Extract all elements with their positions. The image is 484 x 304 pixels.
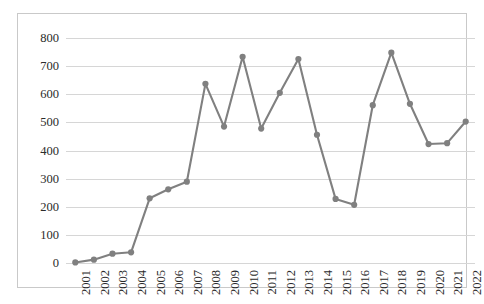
x-axis-tick-label: 2011 <box>266 270 279 295</box>
x-axis-tick-label: 2021 <box>452 270 465 295</box>
plot-frame: 0100200300400500600700800 20012002200320… <box>17 13 467 288</box>
data-point-marker <box>147 195 153 201</box>
data-point-marker <box>407 101 413 107</box>
y-axis-tick-label: 600 <box>40 88 59 101</box>
plot-area: 0100200300400500600700800 20012002200320… <box>66 38 475 263</box>
data-point-marker <box>351 202 357 208</box>
y-axis-tick-label: 300 <box>40 172 59 185</box>
x-axis-tick-label: 2007 <box>192 270 205 295</box>
data-point-marker <box>295 56 301 62</box>
x-axis-tick-label: 2017 <box>378 270 391 295</box>
x-axis-tick-label: 2020 <box>434 270 447 295</box>
data-point-marker <box>425 141 431 147</box>
data-point-marker <box>109 251 115 257</box>
x-axis-tick-label: 2022 <box>471 270 484 295</box>
y-axis-tick-label: 500 <box>40 116 59 129</box>
x-axis-tick-label: 2002 <box>99 270 112 295</box>
y-axis-tick-label: 800 <box>40 32 59 45</box>
series-polyline <box>75 53 465 263</box>
data-point-marker <box>370 102 376 108</box>
data-point-marker <box>463 118 469 124</box>
x-axis-tick-label: 2001 <box>80 270 93 295</box>
x-axis-tick-label: 2010 <box>248 270 261 295</box>
y-axis-tick-label: 0 <box>53 257 59 270</box>
x-axis-tick-label: 2019 <box>415 270 428 295</box>
x-axis-tick-label: 2005 <box>155 270 168 295</box>
x-axis-tick-label: 2018 <box>396 270 409 295</box>
y-axis-tick-label: 700 <box>40 60 59 73</box>
data-point-marker <box>184 179 190 185</box>
data-point-marker <box>332 196 338 202</box>
data-point-marker <box>128 249 134 255</box>
x-axis-tick-label: 2016 <box>359 270 372 295</box>
series-markers <box>72 50 469 266</box>
y-axis-tick-label: 400 <box>40 144 59 157</box>
data-point-marker <box>388 50 394 56</box>
data-point-marker <box>72 259 78 265</box>
x-axis-tick-label: 2006 <box>173 270 186 295</box>
data-point-marker <box>444 140 450 146</box>
y-axis-tick-label: 100 <box>40 229 59 242</box>
data-point-marker <box>277 90 283 96</box>
gridline <box>66 263 475 264</box>
y-axis-tick-label: 200 <box>40 201 59 214</box>
line-chart-figure: 0100200300400500600700800 20012002200320… <box>0 0 484 304</box>
x-axis-tick-label: 2003 <box>117 270 130 295</box>
data-point-marker <box>221 123 227 129</box>
data-series-line <box>66 38 475 263</box>
data-point-marker <box>91 257 97 263</box>
data-point-marker <box>165 186 171 192</box>
data-point-marker <box>314 132 320 138</box>
data-point-marker <box>258 125 264 131</box>
x-axis-tick-label: 2004 <box>136 270 149 295</box>
x-axis-tick-label: 2012 <box>285 270 298 295</box>
x-axis-tick-label: 2014 <box>322 270 335 295</box>
x-axis-tick-label: 2015 <box>341 270 354 295</box>
data-point-marker <box>202 81 208 87</box>
x-axis-tick-label: 2008 <box>210 270 223 295</box>
data-point-marker <box>240 54 246 60</box>
x-axis-tick-label: 2013 <box>303 270 316 295</box>
x-axis-tick-label: 2009 <box>229 270 242 295</box>
